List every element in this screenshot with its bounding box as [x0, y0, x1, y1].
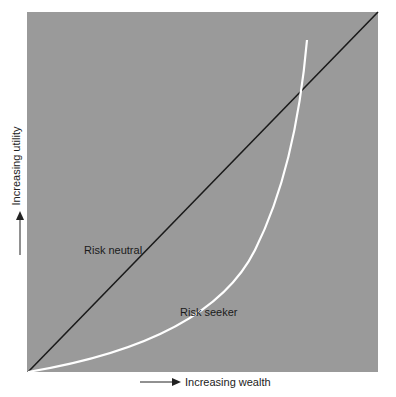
- y-axis-label: Increasing utility: [10, 116, 22, 216]
- risk-seeker-label: Risk seeker: [180, 306, 237, 318]
- risk-neutral-line: [28, 12, 378, 372]
- x-axis-arrow-icon: [172, 378, 181, 386]
- x-axis-label: Increasing wealth: [185, 376, 271, 388]
- chart-curves: [0, 0, 396, 397]
- risk-neutral-label: Risk neutral: [84, 244, 142, 256]
- risk-seeker-curve: [28, 40, 307, 372]
